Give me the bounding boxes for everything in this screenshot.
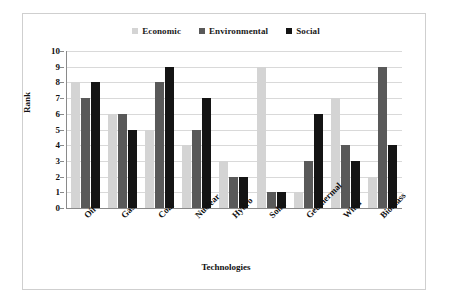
bar-hydro-economic[interactable] <box>219 161 228 208</box>
y-tick-mark <box>60 51 64 52</box>
bar-group-nuclear <box>178 51 215 208</box>
legend-item-social[interactable]: Social <box>286 26 320 36</box>
bar-group-coal <box>141 51 178 208</box>
y-tick-mark <box>60 114 64 115</box>
y-tick-label: 10 <box>51 47 60 56</box>
x-axis-title: Technologies <box>0 262 452 272</box>
legend-label: Environmental <box>209 26 268 36</box>
bar-nuclear-social[interactable] <box>202 98 211 208</box>
bar-oil-economic[interactable] <box>71 82 80 208</box>
y-axis-tick-labels: 109876543210 <box>40 44 64 215</box>
legend-label: Social <box>296 26 320 36</box>
chart-screenshot: EconomicEnvironmentalSocial Rank 1098765… <box>0 0 452 306</box>
bar-coal-social[interactable] <box>165 67 174 208</box>
bar-gas-economic[interactable] <box>108 114 117 208</box>
bar-geothermal-environmental[interactable] <box>304 161 313 208</box>
y-tick-mark <box>60 161 64 162</box>
bar-solar-economic[interactable] <box>257 67 266 208</box>
y-tick-mark <box>60 98 64 99</box>
chart-legend: EconomicEnvironmentalSocial <box>0 26 452 36</box>
bar-nuclear-economic[interactable] <box>182 145 191 208</box>
y-tick-mark <box>60 177 64 178</box>
bar-coal-environmental[interactable] <box>155 82 164 208</box>
bars-layer <box>67 51 401 208</box>
bar-group-biomass <box>364 51 401 208</box>
bar-oil-social[interactable] <box>91 82 100 208</box>
y-tick-mark <box>60 192 64 193</box>
bar-biomass-environmental[interactable] <box>378 67 387 208</box>
legend-label: Economic <box>142 26 181 36</box>
y-tick-mark <box>60 208 64 209</box>
bar-wind-environmental[interactable] <box>341 145 350 208</box>
bar-group-hydro <box>215 51 252 208</box>
bar-group-oil <box>67 51 104 208</box>
bar-geothermal-economic[interactable] <box>294 192 303 208</box>
y-tick-mark <box>60 82 64 83</box>
y-tick-mark <box>60 67 64 68</box>
legend-swatch-icon <box>132 28 138 34</box>
legend-swatch-icon <box>286 28 292 34</box>
legend-swatch-icon <box>199 28 205 34</box>
bar-group-gas <box>104 51 141 208</box>
y-tick-mark <box>60 130 64 131</box>
bar-biomass-economic[interactable] <box>368 177 377 208</box>
bar-group-solar <box>253 51 290 208</box>
bar-gas-social[interactable] <box>128 130 137 209</box>
bar-group-geothermal <box>290 51 327 208</box>
y-axis-title: Rank <box>22 92 32 113</box>
bar-oil-environmental[interactable] <box>81 98 90 208</box>
bar-nuclear-environmental[interactable] <box>192 130 201 209</box>
legend-item-environmental[interactable]: Environmental <box>199 26 268 36</box>
bar-coal-economic[interactable] <box>145 130 154 209</box>
x-axis-tick-labels: OilGasCoalNuclearHydroSolarGeothermalWin… <box>67 209 401 261</box>
bar-hydro-environmental[interactable] <box>229 177 238 208</box>
legend-item-economic[interactable]: Economic <box>132 26 181 36</box>
bar-gas-environmental[interactable] <box>118 114 127 208</box>
y-tick-mark <box>60 145 64 146</box>
